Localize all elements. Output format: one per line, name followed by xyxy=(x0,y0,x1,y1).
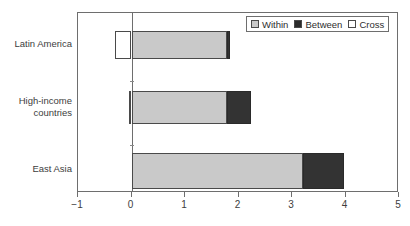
x-axis: −1012345 xyxy=(77,192,398,222)
x-tick-mark xyxy=(131,192,132,197)
bar-segment-between xyxy=(303,153,345,189)
bar-segment-within xyxy=(132,153,303,189)
category-label-latin-america: Latin America xyxy=(0,38,72,50)
category-label-text-line2: countries xyxy=(0,107,72,119)
legend-item-within: Within xyxy=(251,19,288,30)
bar-row-east-asia xyxy=(78,153,397,189)
category-label-text: Latin America xyxy=(14,38,72,49)
bar-row-high-income-countries xyxy=(78,91,397,124)
stacked-bar-chart: Latin America High-income countries East… xyxy=(0,0,410,226)
white-swatch-icon xyxy=(348,20,356,28)
bar-segment-between xyxy=(227,91,252,124)
x-tick-label: 2 xyxy=(235,199,241,211)
dark-swatch-icon xyxy=(294,20,302,28)
inner-tick-mark xyxy=(130,81,134,82)
legend-label: Between xyxy=(305,19,342,30)
x-tick-label: −1 xyxy=(71,199,82,211)
x-tick-mark xyxy=(238,192,239,197)
x-tick-mark xyxy=(77,192,78,197)
x-tick-label: 5 xyxy=(395,199,401,211)
category-label-high-income-countries: High-income countries xyxy=(0,95,72,118)
bar-row-latin-america xyxy=(78,31,397,59)
x-tick-label: 0 xyxy=(128,199,134,211)
x-tick-mark xyxy=(184,192,185,197)
legend-label: Cross xyxy=(359,19,384,30)
x-tick-label: 3 xyxy=(288,199,294,211)
legend-item-cross: Cross xyxy=(348,19,384,30)
bar-segment-within xyxy=(132,91,227,124)
inner-tick-mark xyxy=(130,145,134,146)
bar-segment-within xyxy=(132,31,227,59)
x-tick-mark xyxy=(345,192,346,197)
category-label-text: East Asia xyxy=(32,163,72,174)
x-tick-mark xyxy=(398,192,399,197)
x-tick-label: 1 xyxy=(181,199,187,211)
x-tick-mark xyxy=(291,192,292,197)
category-label-east-asia: East Asia xyxy=(0,163,72,175)
bar-segment-cross xyxy=(115,31,131,59)
legend-label: Within xyxy=(262,19,288,30)
chart-legend: Within Between Cross xyxy=(246,16,389,32)
plot-area: Within Between Cross xyxy=(77,12,398,192)
legend-item-between: Between xyxy=(294,19,342,30)
light-gray-swatch-icon xyxy=(251,20,259,28)
bar-segment-between xyxy=(227,31,231,59)
x-tick-label: 4 xyxy=(342,199,348,211)
category-label-text-line1: High-income xyxy=(0,95,72,107)
